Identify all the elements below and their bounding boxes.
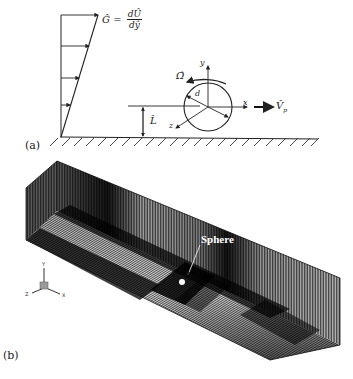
triad-x-label: X [62,292,65,298]
velocity-subscript: p [283,106,287,113]
mesh-domain [26,161,340,360]
axis-y-label: y [200,58,205,67]
velocity-label: V̂p [276,100,287,113]
panel-b-label: (b) [3,349,19,362]
height-label: L̂ [150,115,157,126]
rotation-label: Ω̂ [176,70,184,81]
panel-a-label: (a) [25,139,40,152]
diameter-label: d [195,89,200,98]
shear-rate-denominator: dŷ [127,20,142,30]
axis-x-label: x [243,98,248,107]
shear-rate-formula: Ĝ = dÛ dŷ [102,9,142,30]
shear-rate-numerator: dÛ [127,9,142,20]
height-dimension [128,106,200,136]
shear-profile [61,15,98,137]
axis-z-label: z [169,121,173,130]
triad-z-label: Z [25,291,28,297]
shear-rate-lhs: Ĝ = [102,14,122,25]
wall [50,137,319,146]
triad-y-label: Y [42,261,45,267]
axis-triad [32,268,60,294]
figure-canvas [0,0,353,379]
particle-schematic [176,66,273,131]
sphere-label: Sphere [201,233,234,245]
